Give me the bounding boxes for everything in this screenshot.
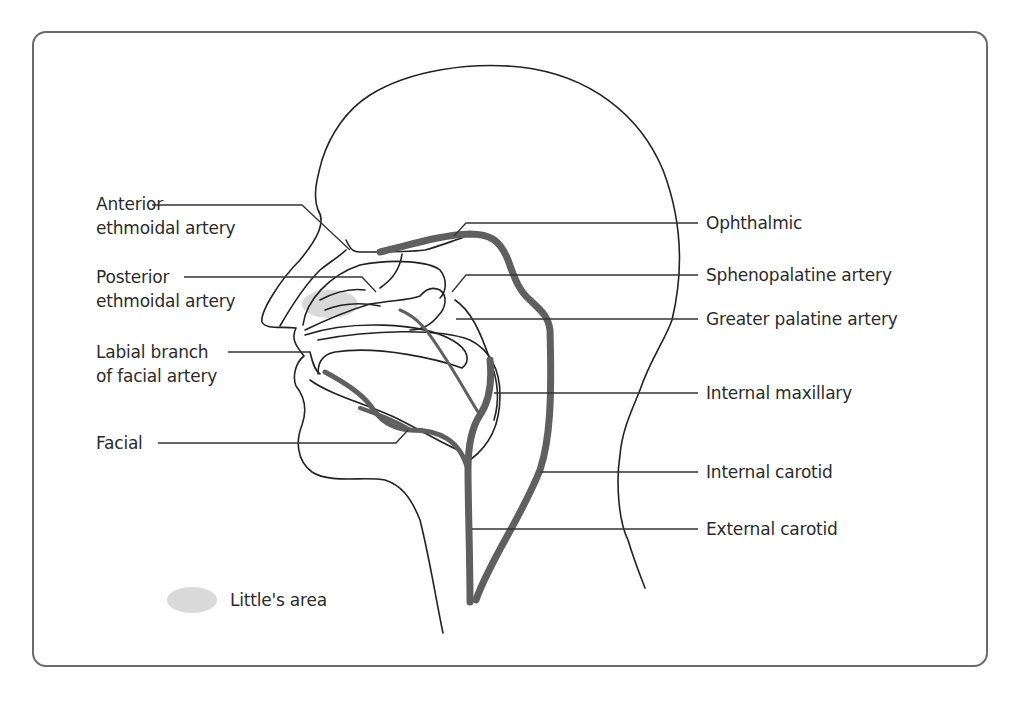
- leader-facial: [158, 430, 408, 443]
- external-carotid-artery: [468, 360, 491, 602]
- facial-branch-artery: [360, 408, 410, 430]
- label-anterior-ethmoidal: Anterior ethmoidal artery: [96, 192, 235, 240]
- septal-branch-3: [380, 254, 402, 288]
- leader-sphenopalatine: [452, 275, 698, 292]
- label-internal-maxillary: Internal maxillary: [706, 381, 852, 405]
- label-facial-line1: Facial: [96, 433, 143, 453]
- label-posterior-ethmoidal: Posterior ethmoidal artery: [96, 265, 235, 313]
- label-facial: Facial: [96, 431, 143, 455]
- label-sphenopalatine: Sphenopalatine artery: [706, 263, 892, 287]
- sphenopalatine-artery: [400, 310, 480, 415]
- label-labial-branch: Labial branch of facial artery: [96, 340, 217, 388]
- littles-area-legend-swatch: [167, 587, 217, 613]
- legend-littles-area-label: Little's area: [230, 588, 327, 612]
- label-anterior-ethmoidal-line1: Anterior: [96, 194, 163, 214]
- label-labial-branch-line2: of facial artery: [96, 364, 217, 388]
- label-greater-palatine: Greater palatine artery: [706, 307, 898, 331]
- label-anterior-ethmoidal-line2: ethmoidal artery: [96, 216, 235, 240]
- label-ophthalmic: Ophthalmic: [706, 211, 802, 235]
- label-labial-branch-line1: Labial branch: [96, 342, 208, 362]
- internal-carotid-artery: [380, 234, 551, 600]
- label-internal-carotid: Internal carotid: [706, 460, 833, 484]
- label-posterior-ethmoidal-line2: ethmoidal artery: [96, 289, 235, 313]
- label-posterior-ethmoidal-line1: Posterior: [96, 267, 169, 287]
- label-external-carotid: External carotid: [706, 517, 838, 541]
